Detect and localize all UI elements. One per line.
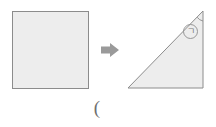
figure-canvas bbox=[0, 0, 216, 127]
triangle-shape bbox=[128, 11, 203, 88]
square-shape bbox=[13, 12, 89, 89]
transform-arrow-icon bbox=[101, 43, 119, 57]
geometry-figure: ㄱ ( bbox=[0, 0, 216, 127]
